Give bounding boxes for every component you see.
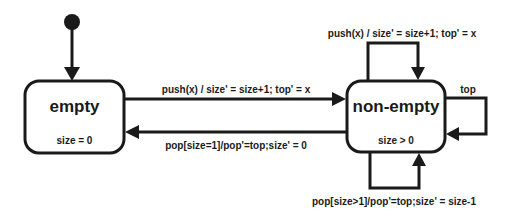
state-non-empty-title: non-empty — [353, 97, 440, 116]
transition-label: pop[size=1]/pop'=top;size' = 0 — [165, 140, 307, 151]
arrowhead-icon — [446, 127, 459, 141]
arrowhead-icon — [411, 67, 425, 80]
transition-push-self-loop[interactable]: push(x) / size' = size+1; top' = x — [328, 28, 477, 81]
arrowhead-icon — [64, 67, 80, 81]
transition-label: push(x) / size' = size+1; top' = x — [328, 28, 477, 39]
transition-line — [368, 43, 418, 81]
arrowhead-icon — [125, 125, 139, 139]
transition-pop-self-loop[interactable]: pop[size>1]/pop'=top;size' = size-1 — [312, 152, 476, 207]
arrowhead-icon — [412, 153, 426, 166]
state-empty-title: empty — [49, 97, 100, 116]
state-non-empty-invariant: size > 0 — [378, 135, 414, 146]
initial-state — [64, 14, 80, 81]
transition-push-empty-to-nonempty[interactable]: push(x) / size' = size+1; top' = x — [124, 84, 346, 106]
transition-label: top — [460, 84, 476, 95]
transition-pop-nonempty-to-empty[interactable]: pop[size=1]/pop'=top;size' = 0 — [125, 125, 346, 151]
transition-line — [445, 98, 486, 134]
state-empty[interactable]: empty size = 0 — [25, 81, 124, 153]
state-diagram: empty size = 0 non-empty size > 0 push(x… — [0, 0, 507, 214]
transition-label: push(x) / size' = size+1; top' = x — [162, 84, 311, 95]
state-empty-invariant: size = 0 — [57, 135, 93, 146]
transition-line — [370, 152, 419, 188]
state-non-empty[interactable]: non-empty size > 0 — [347, 81, 445, 152]
arrowhead-icon — [332, 92, 346, 106]
transition-label: pop[size>1]/pop'=top;size' = size-1 — [312, 196, 476, 207]
transition-top-self-loop[interactable]: top — [445, 84, 486, 141]
